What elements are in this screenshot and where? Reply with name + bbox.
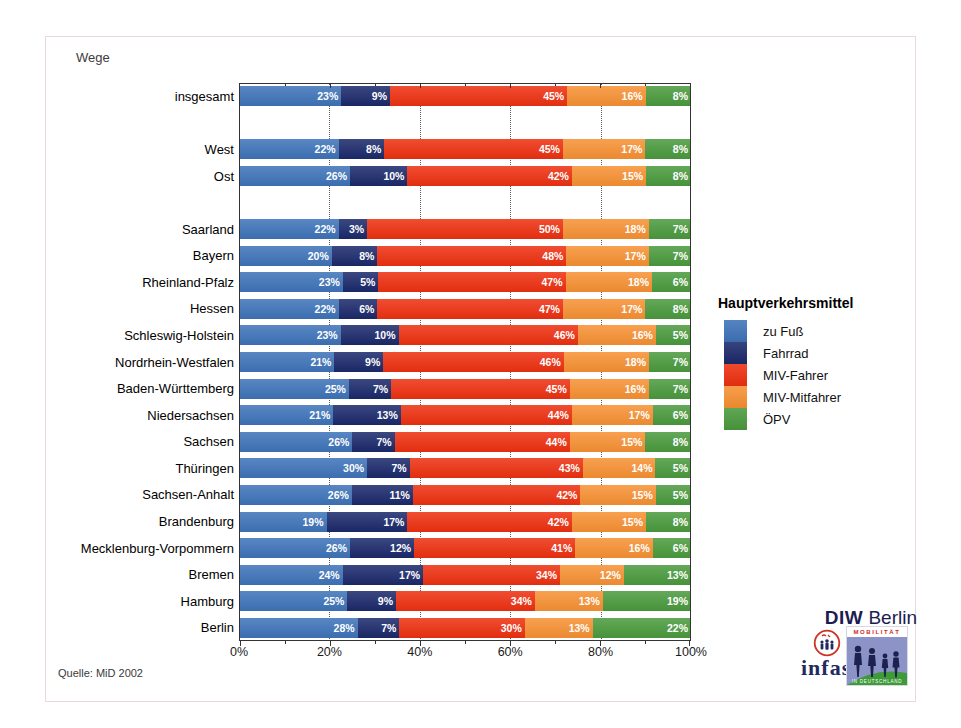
- value-label: 24%: [319, 569, 343, 581]
- category-label: Baden-Württemberg: [51, 381, 239, 396]
- value-label: 48%: [542, 250, 566, 262]
- bar-sachsen: 26%7%44%15%8%: [239, 432, 691, 452]
- diw-logo-text: DIW: [825, 607, 863, 628]
- value-label: 26%: [326, 170, 350, 182]
- bar-segment-zu-fu-: 22%: [239, 219, 339, 239]
- category-label: Niedersachsen: [51, 408, 239, 423]
- x-tick-label-60: 60%: [498, 645, 523, 659]
- value-label: 6%: [673, 409, 691, 421]
- value-label: 14%: [631, 462, 655, 474]
- bar-segment-miv-fahrer: 42%: [413, 485, 581, 505]
- bar-segment-fahrrad: 7%: [358, 618, 400, 638]
- bar-schleswig-holstein: 23%10%46%16%5%: [239, 325, 691, 345]
- value-label: 8%: [673, 516, 691, 528]
- legend-title: Hauptverkehrsmittel: [718, 295, 914, 311]
- bar-segment-miv-fahrer: 45%: [390, 86, 567, 106]
- bar-segment-fahrrad: 12%: [350, 538, 414, 558]
- people-silhouettes-icon: [847, 637, 907, 685]
- bar-segment-miv-mitfahrer: 14%: [583, 458, 656, 478]
- value-label: 7%: [381, 622, 399, 634]
- bar-segment--pv: 5%: [656, 485, 691, 505]
- category-label: insgesamt: [51, 89, 239, 104]
- value-label: 30%: [343, 462, 367, 474]
- bar-segment--pv: 7%: [649, 379, 691, 399]
- legend-label: MIV-Mitfahrer: [763, 390, 841, 405]
- bar-segment-miv-fahrer: 48%: [377, 246, 566, 266]
- bar-segment-zu-fu-: 21%: [239, 405, 333, 425]
- value-label: 8%: [673, 303, 691, 315]
- legend-label: MIV-Fahrer: [763, 368, 828, 383]
- bar-segment-zu-fu-: 25%: [239, 591, 347, 611]
- value-label: 6%: [673, 542, 691, 554]
- bar-segment-miv-mitfahrer: 18%: [563, 219, 649, 239]
- category-label: Sachsen-Anhalt: [51, 487, 239, 502]
- bar-segment-miv-mitfahrer: 15%: [572, 166, 646, 186]
- bar-segment-miv-fahrer: 44%: [395, 432, 570, 452]
- value-label: 13%: [377, 409, 401, 421]
- value-label: 23%: [317, 90, 341, 102]
- bar-segment-miv-mitfahrer: 13%: [525, 618, 593, 638]
- bar-segment-fahrrad: 13%: [333, 405, 400, 425]
- legend-item-miv-fahrer: MIV-Fahrer: [714, 364, 914, 386]
- category-label: Nordrhein-Westfalen: [51, 355, 239, 370]
- value-label: 7%: [373, 383, 391, 395]
- value-label: 30%: [501, 622, 525, 634]
- category-label: Berlin: [51, 620, 239, 635]
- value-label: 23%: [319, 276, 343, 288]
- chart-row: Hessen22%6%47%17%8%: [51, 296, 691, 323]
- legend-swatch: [724, 320, 747, 342]
- x-tick-label-0: 0%: [230, 645, 248, 659]
- value-label: 15%: [622, 170, 646, 182]
- bar-segment-miv-mitfahrer: 18%: [566, 272, 652, 292]
- value-label: 42%: [548, 516, 572, 528]
- mobilitaet-logo-image: IN DEUTSCHLAND: [847, 637, 907, 685]
- bar-bayern: 20%8%48%17%7%: [239, 246, 691, 266]
- value-label: 13%: [667, 569, 691, 581]
- bar-saarland: 22%3%50%18%7%: [239, 219, 691, 239]
- page: { "title": "Wege", "source": "Quelle: Mi…: [0, 0, 961, 728]
- bar-segment-fahrrad: 7%: [367, 458, 409, 478]
- spacer-row: [51, 110, 691, 137]
- bar-segment-zu-fu-: 26%: [239, 166, 350, 186]
- chart-row: Mecklenburg-Vorpommern26%12%41%16%6%: [51, 535, 691, 562]
- category-label: Saarland: [51, 222, 239, 237]
- value-label: 7%: [376, 436, 394, 448]
- bar-west: 22%8%45%17%8%: [239, 139, 691, 159]
- value-label: 15%: [621, 436, 645, 448]
- bar-baden-w-rttemberg: 25%7%45%16%7%: [239, 379, 691, 399]
- value-label: 42%: [548, 170, 572, 182]
- value-label: 6%: [673, 276, 691, 288]
- bar-ost: 26%10%42%15%8%: [239, 166, 691, 186]
- bar-segment--pv: 13%: [624, 565, 691, 585]
- bar-segment-miv-mitfahrer: 16%: [567, 86, 645, 106]
- bar-segment-miv-fahrer: 41%: [414, 538, 575, 558]
- chart-row: Thüringen30%7%43%14%5%: [51, 455, 691, 482]
- value-label: 5%: [673, 329, 691, 341]
- value-label: 17%: [629, 409, 653, 421]
- bar-segment-miv-mitfahrer: 12%: [560, 565, 624, 585]
- bar-segment-miv-fahrer: 46%: [383, 352, 564, 372]
- bar-segment-miv-mitfahrer: 17%: [572, 405, 653, 425]
- mobilitaet-logo-subtitle: IN DEUTSCHLAND: [847, 679, 907, 684]
- legend-items: zu FußFahrradMIV-FahrerMIV-MitfahrerÖPV: [714, 320, 914, 430]
- bar-segment-fahrrad: 9%: [347, 591, 396, 611]
- bar-brandenburg: 19%17%42%15%8%: [239, 512, 691, 532]
- value-label: 12%: [390, 542, 414, 554]
- bar-segment--pv: 8%: [645, 299, 691, 319]
- value-label: 22%: [667, 622, 691, 634]
- category-label: Thüringen: [51, 461, 239, 476]
- bar-segment-zu-fu-: 19%: [239, 512, 327, 532]
- value-label: 26%: [326, 542, 350, 554]
- value-label: 26%: [328, 489, 352, 501]
- value-label: 19%: [667, 595, 691, 607]
- x-tick-label-80: 80%: [588, 645, 613, 659]
- bar-segment--pv: 5%: [655, 458, 691, 478]
- bar-rheinland-pfalz: 23%5%47%18%6%: [239, 272, 691, 292]
- value-label: 5%: [360, 276, 378, 288]
- bar-segment-fahrrad: 8%: [339, 139, 385, 159]
- value-label: 8%: [673, 170, 691, 182]
- value-label: 8%: [673, 436, 691, 448]
- bar-insgesamt: 23%9%45%16%8%: [239, 86, 691, 106]
- value-label: 3%: [349, 223, 367, 235]
- category-label: Bremen: [51, 567, 239, 582]
